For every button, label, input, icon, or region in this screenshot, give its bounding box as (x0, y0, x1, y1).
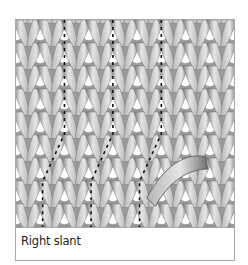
knit-stitch-illustration (16, 20, 234, 228)
figure-caption: Right slant (21, 234, 81, 248)
knit-fabric-graphic (16, 20, 234, 227)
figure-frame: Right slant (15, 19, 235, 261)
